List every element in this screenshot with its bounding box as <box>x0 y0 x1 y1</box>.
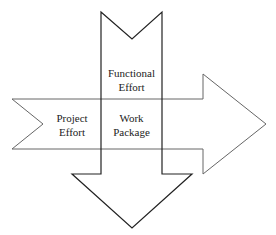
project-label-line1: Project <box>44 111 100 125</box>
project-label-line2: Effort <box>44 125 100 139</box>
functional-label-line1: Functional <box>101 66 162 80</box>
work-package-line1: Work <box>101 111 162 125</box>
functional-label-line2: Effort <box>101 80 162 94</box>
work-package-label: Work Package <box>101 111 162 139</box>
functional-effort-label: Functional Effort <box>101 66 162 94</box>
diagram-canvas: Functional Effort Project Effort Work Pa… <box>0 0 276 235</box>
project-effort-label: Project Effort <box>44 111 100 139</box>
work-package-line2: Package <box>101 125 162 139</box>
